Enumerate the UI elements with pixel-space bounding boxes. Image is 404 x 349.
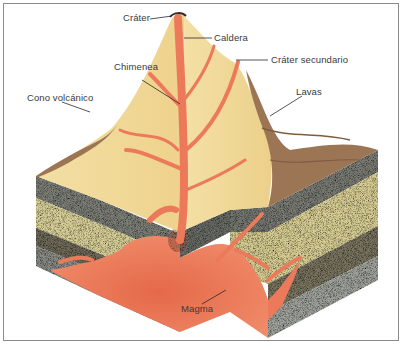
label-chimney: Chimenea — [114, 62, 158, 72]
label-secondary-crater: Cráter secundario — [271, 55, 348, 65]
label-caldera: Caldera — [214, 33, 248, 43]
label-magma: Magma — [181, 304, 213, 314]
label-volcanic-cone: Cono volcánico — [27, 93, 93, 103]
label-crater: Cráter — [123, 13, 150, 23]
volcano-cross-section — [0, 0, 404, 349]
label-lavas: Lavas — [296, 87, 322, 97]
